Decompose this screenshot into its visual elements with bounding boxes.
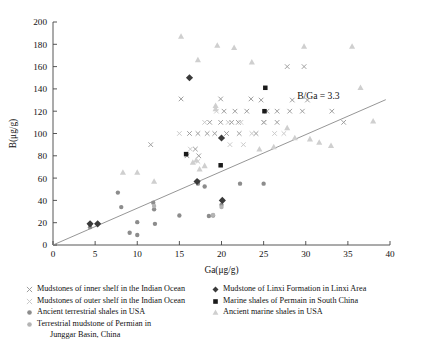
data-point (187, 131, 192, 136)
legend-item-label: Mudstone of Linxi Formation in Linxi Are… (223, 283, 366, 295)
legend-item-right-2[interactable]: Ancient marine shales in USA (210, 306, 420, 318)
legend-label-line-1: Terrestrial mudstone of Permian in (37, 319, 151, 328)
legend-item-left-1[interactable]: Mudstones of outer shelf in the Indian O… (24, 295, 224, 307)
data-point (120, 169, 126, 175)
data-point (330, 109, 335, 114)
square-marker-icon (210, 295, 223, 307)
data-point (184, 152, 188, 156)
data-point (207, 214, 211, 218)
data-point (236, 120, 241, 125)
data-point (307, 136, 313, 142)
data-point (284, 125, 290, 131)
legend-item-right-0[interactable]: Mudstone of Linxi Formation in Linxi Are… (210, 283, 420, 295)
y-tick-label: 0 (42, 240, 47, 250)
diamond-marker-icon (210, 283, 223, 295)
legend-label-line-2: Junggar Basin, China (37, 329, 151, 341)
y-tick-label: 100 (33, 129, 47, 139)
data-point (300, 109, 305, 114)
data-point (218, 97, 223, 102)
data-point (231, 44, 237, 50)
data-point (135, 220, 139, 224)
legend-item-label: Marine shales of Permain in South China (223, 295, 358, 307)
series-3 (152, 204, 224, 217)
data-point (254, 131, 259, 136)
data-point (349, 43, 355, 49)
data-point (222, 109, 227, 114)
y-tick-label: 140 (33, 84, 47, 94)
data-point (202, 184, 206, 188)
series-6 (120, 33, 376, 183)
series-0 (148, 64, 346, 158)
y-tick-label: 120 (33, 107, 47, 117)
legend-label-line-1: Ancient terrestrial shales in USA (37, 307, 145, 316)
data-point (249, 97, 254, 102)
data-point (205, 131, 210, 136)
data-point (119, 205, 123, 209)
x-tick-label: 10 (133, 249, 143, 259)
data-point (262, 109, 266, 113)
circle-marker-icon (24, 306, 37, 318)
x-tick-label: 15 (175, 249, 185, 259)
data-point (357, 85, 363, 91)
data-point (177, 131, 182, 136)
data-point (135, 233, 139, 237)
data-point (244, 109, 249, 114)
series-1 (177, 109, 286, 164)
data-point (285, 64, 290, 69)
legend-item-left-2[interactable]: Ancient terrestrial shales in USA (24, 306, 224, 318)
data-point (218, 120, 223, 125)
data-point (272, 131, 277, 136)
data-point (116, 190, 120, 194)
circle-light-marker-icon (24, 318, 37, 330)
data-point (224, 131, 229, 136)
data-point (370, 118, 376, 124)
data-point (259, 98, 264, 103)
data-point (302, 64, 307, 69)
data-point (328, 143, 334, 149)
data-point (134, 169, 140, 175)
x-axis-title: Ga(μg/g) (204, 265, 238, 276)
legend-column-left: Mudstones of inner shelf in the Indian O… (24, 283, 224, 341)
scatter-chart-figure: 0204060801001201401601802000510152025303… (0, 0, 423, 351)
data-point (316, 139, 322, 145)
legend-label-line-1: Mudstones of inner shelf in the Indian O… (37, 284, 185, 293)
data-point (196, 154, 201, 159)
data-point (261, 120, 266, 125)
data-point (261, 181, 265, 185)
x-tick-label: 40 (385, 249, 395, 259)
legend-item-left-3[interactable]: Terrestrial mudstone of Permian inJungga… (24, 318, 224, 341)
data-point (301, 43, 307, 49)
legend-item-right-1[interactable]: Marine shales of Permain in South China (210, 295, 420, 307)
data-point (153, 222, 157, 226)
data-point (188, 147, 193, 152)
data-point (148, 142, 153, 147)
data-point (249, 59, 255, 65)
data-point (87, 220, 94, 227)
x-tick-label: 30 (301, 249, 311, 259)
triangle-marker-icon (210, 306, 223, 318)
data-point (152, 204, 156, 208)
legend-label-line-1: Ancient marine shales in USA (223, 307, 323, 316)
legend-label-line-1: Mudstones of outer shelf in the Indian O… (37, 296, 185, 305)
legend-item-label: Ancient marine shales in USA (223, 306, 323, 318)
data-point (212, 131, 217, 136)
y-tick-label: 60 (38, 174, 48, 184)
legend-item-label: Mudstones of inner shelf in the Indian O… (37, 283, 185, 295)
data-point (239, 120, 244, 125)
data-point (197, 166, 203, 172)
x-tick-label: 5 (93, 249, 98, 259)
data-point (287, 109, 292, 114)
data-point (127, 231, 131, 235)
data-point (263, 86, 267, 90)
legend-item-label: Mudstones of outer shelf in the Indian O… (37, 295, 185, 307)
legend-item-left-0[interactable]: Mudstones of inner shelf in the Indian O… (24, 283, 224, 295)
data-point (282, 131, 287, 136)
x-tick-label: 35 (343, 249, 353, 259)
data-point (228, 142, 233, 147)
data-point (177, 213, 181, 217)
data-point (196, 131, 201, 136)
y-axis-title: B(μg/g) (8, 119, 19, 149)
data-point (219, 205, 223, 209)
legend-label-line-1: Mudstone of Linxi Formation in Linxi Are… (223, 284, 366, 293)
data-point (219, 197, 226, 204)
